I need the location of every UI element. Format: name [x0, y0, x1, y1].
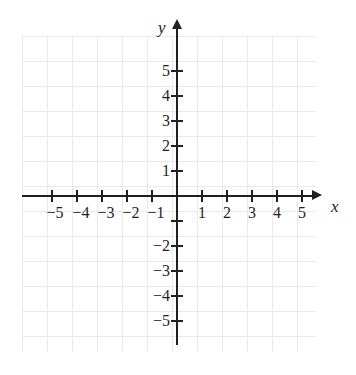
y-axis-tick-label: −3: [153, 263, 170, 279]
x-axis-tick-label: −1: [147, 205, 164, 221]
x-axis-tick-label: 5: [298, 205, 306, 221]
x-axis-tick-label: 2: [223, 205, 231, 221]
coordinate-plane-figure: y x −5−4−3−2−11234554321−2−3−4−5: [0, 0, 356, 375]
y-axis-label: y: [158, 19, 166, 36]
y-axis-tick: [171, 320, 183, 322]
x-axis-tick: [251, 190, 253, 202]
x-axis-tick-label: 3: [248, 205, 256, 221]
y-axis-tick-label: 1: [162, 163, 170, 179]
x-axis-tick-label: −2: [122, 205, 139, 221]
x-axis-tick-label: 4: [273, 205, 281, 221]
y-axis-tick: [171, 120, 183, 122]
x-axis-tick: [151, 190, 153, 202]
y-axis-tick: [171, 270, 183, 272]
y-axis-tick-label: −5: [153, 313, 170, 329]
x-axis-tick: [201, 190, 203, 202]
x-axis-tick: [226, 190, 228, 202]
y-axis-tick-label: 3: [162, 113, 170, 129]
y-axis-tick-label: 5: [162, 63, 170, 79]
x-axis-label: x: [331, 198, 339, 215]
y-axis-tick-label: −4: [153, 288, 170, 304]
y-axis-tick: [171, 170, 183, 172]
y-axis-tick: [171, 220, 183, 222]
x-axis-tick-label: −5: [46, 205, 63, 221]
x-axis-arrowhead-icon: [312, 190, 322, 200]
x-axis-tick: [126, 190, 128, 202]
y-axis-tick: [171, 145, 183, 147]
x-axis-tick: [301, 190, 303, 202]
y-axis-tick: [171, 245, 183, 247]
x-axis-tick-label: −4: [72, 205, 89, 221]
y-axis-tick: [171, 95, 183, 97]
x-axis-tick: [51, 190, 53, 202]
background-grid: [22, 36, 316, 352]
y-axis-line: [176, 26, 178, 345]
y-axis-tick: [171, 70, 183, 72]
y-axis-tick-label: −2: [153, 238, 170, 254]
x-axis-tick: [76, 190, 78, 202]
y-axis-tick-label: 2: [162, 138, 170, 154]
x-axis-tick-label: −3: [97, 205, 114, 221]
x-axis-tick: [101, 190, 103, 202]
y-axis-tick-label: 4: [162, 88, 170, 104]
x-axis-line: [22, 195, 316, 197]
y-axis-arrowhead-icon: [172, 19, 182, 29]
x-axis-tick-label: 1: [198, 205, 206, 221]
y-axis-tick: [171, 295, 183, 297]
x-axis-tick: [276, 190, 278, 202]
